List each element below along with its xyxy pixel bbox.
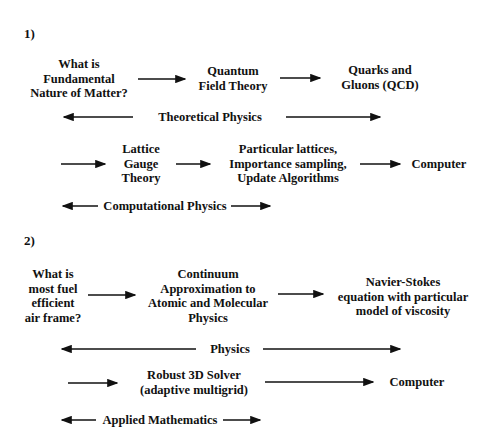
node-lattice-gauge-theory: Lattice Gauge Theory [106, 142, 176, 186]
node-line: Continuum [140, 267, 276, 282]
node-line: What is [20, 267, 86, 282]
node-line: Field Theory [190, 79, 276, 94]
node-line: Lattice [106, 142, 176, 157]
node-continuum-approximation: Continuum Approximation to Atomic and Mo… [140, 267, 276, 325]
node-line: What is [26, 57, 132, 72]
section-1-label: 1) [24, 26, 35, 42]
node-line: Fundamental [26, 72, 132, 87]
node-line: efficient [20, 296, 86, 311]
span-theoretical-physics: Theoretical Physics [135, 110, 285, 125]
node-line: model of viscosity [330, 304, 476, 319]
node-line: Gluons (QCD) [330, 78, 430, 93]
node-fundamental-question: What is Fundamental Nature of Matter? [26, 57, 132, 101]
span-physics: Physics [200, 342, 260, 357]
node-navier-stokes: Navier-Stokes equation with particular m… [330, 275, 476, 319]
section-2-label: 2) [24, 233, 35, 249]
node-line: (adaptive multigrid) [128, 383, 260, 398]
node-robust-3d-solver: Robust 3D Solver (adaptive multigrid) [128, 368, 260, 397]
node-line: Approximation to [140, 282, 276, 297]
node-line: Atomic and Molecular [140, 296, 276, 311]
node-line: Robust 3D Solver [128, 368, 260, 383]
node-fuel-efficient-question: What is most fuel efficient air frame? [20, 267, 86, 325]
node-line: Particular lattices, [218, 142, 358, 157]
node-line: Gauge [106, 157, 176, 172]
node-algorithms: Particular lattices, Importance sampling… [218, 142, 358, 186]
node-computer-2: Computer [382, 375, 452, 390]
node-computer-1: Computer [404, 157, 474, 172]
node-line: Update Algorithms [218, 171, 358, 186]
node-line: Navier-Stokes [330, 275, 476, 290]
node-line: most fuel [20, 282, 86, 297]
node-line: Importance sampling, [218, 157, 358, 172]
node-quarks-gluons: Quarks and Gluons (QCD) [330, 63, 430, 92]
node-line: Physics [140, 311, 276, 326]
span-computational-physics: Computational Physics [99, 199, 231, 214]
node-line: Nature of Matter? [26, 86, 132, 101]
node-line: Quarks and [330, 63, 430, 78]
node-line: Quantum [190, 64, 276, 79]
span-applied-mathematics: Applied Mathematics [98, 413, 222, 428]
node-line: Theory [106, 171, 176, 186]
node-quantum-field-theory: Quantum Field Theory [190, 64, 276, 93]
node-line: equation with particular [330, 290, 476, 305]
node-line: air frame? [20, 311, 86, 326]
